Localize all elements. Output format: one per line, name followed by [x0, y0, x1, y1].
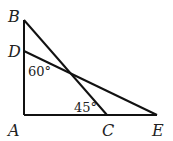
point-label-e: E — [151, 121, 164, 140]
point-label-c: C — [102, 121, 114, 140]
point-label-d: D — [7, 42, 21, 61]
point-label-b: B — [7, 7, 20, 26]
angle-label-45: 45° — [74, 100, 97, 115]
geometry-diagram: B D A C E 60° 45° — [0, 0, 173, 141]
point-label-a: A — [6, 121, 20, 140]
diagram-svg: B D A C E 60° 45° — [0, 0, 173, 141]
angle-label-60: 60° — [28, 64, 51, 79]
